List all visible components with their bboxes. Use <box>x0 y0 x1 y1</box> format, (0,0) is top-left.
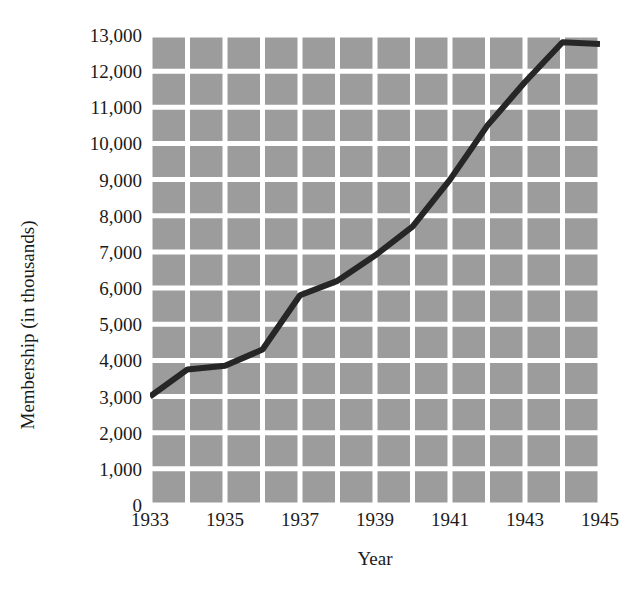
membership-line-chart: Membership (in thousands) Year 13,00012,… <box>0 0 625 591</box>
y-tick-label: 5,000 <box>42 315 142 334</box>
y-tick-label: 1,000 <box>42 459 142 478</box>
y-tick-label: 8,000 <box>42 206 142 225</box>
y-tick-label: 11,000 <box>42 98 142 117</box>
y-tick-label: 9,000 <box>42 170 142 189</box>
x-axis-tick-labels: 1933193519371939194119431945 <box>0 510 625 540</box>
x-tick-label: 1945 <box>555 510 625 529</box>
y-tick-label: 7,000 <box>42 242 142 261</box>
y-tick-label: 4,000 <box>42 351 142 370</box>
x-axis-title: Year <box>150 548 600 570</box>
y-axis-title: Membership (in thousands) <box>17 160 39 490</box>
y-tick-label: 12,000 <box>42 62 142 81</box>
plot-area <box>150 35 600 505</box>
y-tick-label: 10,000 <box>42 134 142 153</box>
y-tick-label: 13,000 <box>42 26 142 45</box>
y-tick-label: 3,000 <box>42 387 142 406</box>
y-tick-label: 2,000 <box>42 423 142 442</box>
plot-canvas <box>150 35 600 505</box>
y-tick-label: 6,000 <box>42 279 142 298</box>
grid-lines <box>150 35 600 505</box>
y-axis-tick-labels: 13,00012,00011,00010,0009,0008,0007,0006… <box>38 0 142 591</box>
